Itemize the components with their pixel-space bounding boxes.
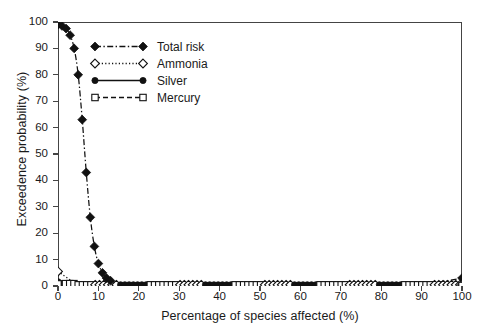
legend-swatch-filled-diamond-icon [88, 38, 150, 55]
y-tick-mark [53, 74, 58, 75]
data-point-filled-diamond [94, 259, 103, 268]
y-tick-mark [53, 127, 58, 128]
legend-item-total-risk[interactable]: Total risk [88, 38, 208, 55]
legend-label: Ammonia [157, 58, 208, 70]
legend-label: Mercury [157, 92, 200, 104]
y-tick-mark [53, 233, 58, 234]
data-point-open-diamond [58, 267, 62, 276]
y-tick-mark [53, 206, 58, 207]
x-tick-label: 10 [78, 291, 118, 303]
data-point-filled-diamond [91, 42, 100, 51]
x-tick-label: 0 [38, 291, 78, 303]
data-point-filled-diamond [78, 115, 87, 124]
y-tick-mark [53, 259, 58, 260]
legend-item-ammonia[interactable]: Ammonia [88, 55, 208, 72]
legend-label: Total risk [157, 41, 204, 53]
data-point-open-diamond [139, 59, 148, 68]
x-tick-label: 100 [442, 291, 480, 303]
y-axis-title: Exceedence probability (%) [15, 9, 29, 289]
data-point-open-diamond [91, 59, 100, 68]
x-tick-label: 50 [240, 291, 280, 303]
legend-label: Silver [157, 75, 187, 87]
x-tick-label: 90 [402, 291, 442, 303]
y-tick-mark [53, 180, 58, 181]
data-point-filled-circle [92, 77, 98, 83]
data-point-filled-diamond [70, 44, 79, 53]
chart-figure: 0102030405060708090100010203040506070809… [0, 0, 480, 335]
data-point-open-square [92, 94, 98, 100]
data-point-open-square [140, 94, 146, 100]
legend-item-silver[interactable]: Silver [88, 72, 208, 89]
x-tick-label: 70 [321, 291, 361, 303]
data-point-filled-diamond [139, 42, 148, 51]
data-point-filled-diamond [90, 242, 99, 251]
x-tick-label: 40 [200, 291, 240, 303]
data-point-filled-diamond [82, 168, 91, 177]
y-tick-mark [53, 48, 58, 49]
data-point-filled-diamond [74, 70, 83, 79]
x-tick-label: 20 [119, 291, 159, 303]
y-tick-mark [53, 21, 58, 22]
x-tick-label: 60 [280, 291, 320, 303]
x-axis-title: Percentage of species affected (%) [58, 309, 462, 323]
legend-swatch-open-diamond-icon [88, 55, 150, 72]
legend-swatch-filled-circle-icon [88, 72, 150, 89]
chart-legend: Total riskAmmoniaSilverMercury [88, 38, 208, 106]
data-point-filled-diamond [86, 213, 95, 222]
legend-swatch-open-square-icon [88, 89, 150, 106]
data-point-filled-circle [140, 77, 146, 83]
legend-item-mercury[interactable]: Mercury [88, 89, 208, 106]
x-tick-label: 80 [361, 291, 401, 303]
y-tick-mark [53, 101, 58, 102]
x-tick-label: 30 [159, 291, 199, 303]
y-tick-mark [53, 153, 58, 154]
